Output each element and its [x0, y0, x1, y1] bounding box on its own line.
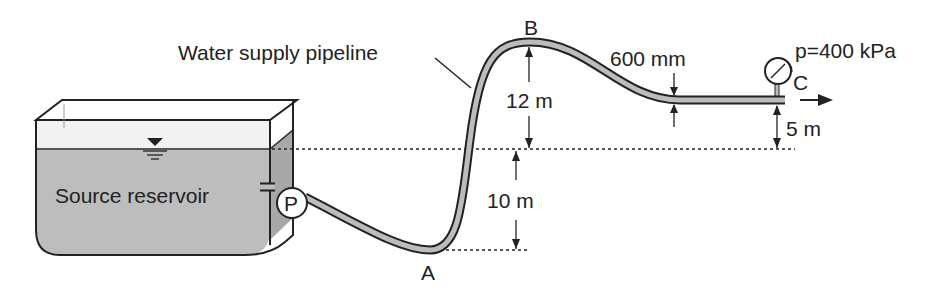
point-a-label: A	[421, 262, 435, 283]
pipeline-diagram: Water supply pipeline Source reservoir P…	[0, 0, 939, 300]
height-b-label: 12 m	[506, 90, 553, 111]
diameter-label: 600 mm	[610, 48, 686, 69]
pipeline	[260, 42, 785, 250]
depth-a-label: 10 m	[487, 190, 534, 211]
height-c-label: 5 m	[786, 118, 821, 139]
pipeline-label: Water supply pipeline	[178, 42, 378, 63]
reservoir	[36, 100, 297, 255]
pressure-label: p=400 kPa	[795, 40, 896, 61]
point-b-label: B	[524, 17, 538, 38]
point-c-label: C	[793, 72, 808, 93]
reservoir-label: Source reservoir	[55, 185, 209, 206]
pump-label: P	[284, 193, 298, 214]
pressure-gauge-icon	[765, 58, 792, 96]
